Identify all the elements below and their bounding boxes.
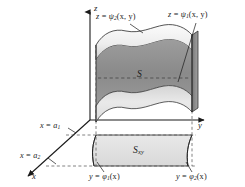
solid-region-s (96, 25, 198, 122)
left-curve-eq: = (95, 172, 100, 181)
plane-a2-lhs: x (20, 151, 24, 160)
base-region-sub: xy (138, 148, 144, 155)
plane-a2-eq: = (26, 151, 31, 160)
lower-surface-args: (x, y) (189, 10, 208, 19)
left-curve-label: y = φ1(x) (89, 173, 120, 182)
lower-surface-lhs: z (168, 10, 171, 19)
plane-a1-sub: 1 (57, 124, 60, 130)
base-region-label: Sxy (133, 145, 144, 156)
left-curve-args: (x) (110, 172, 120, 181)
y-axis-label: y (198, 121, 202, 130)
left-curve-lhs: y (89, 172, 93, 181)
leader-plane-a2 (48, 158, 56, 164)
leader-plane-a1 (68, 128, 76, 133)
plane-a1-eq: = (46, 121, 51, 130)
solid-region-label: S (137, 69, 142, 79)
plane-a1-label: x = a1 (40, 122, 60, 131)
lower-surface-label: z = ψ1(x, y) (168, 11, 208, 20)
plane-a2-sub: 2 (37, 154, 40, 160)
right-curve-label: y = φ2(x) (176, 173, 207, 182)
x-axis-label: x (32, 172, 36, 181)
right-curve-eq: = (182, 172, 187, 181)
right-curve-lhs: y (176, 172, 180, 181)
upper-surface-eq: = (102, 12, 107, 21)
plane-a1-lhs: x (40, 121, 44, 130)
lower-surface-eq: = (174, 10, 179, 19)
leader-right-curve (186, 162, 192, 172)
plane-a2-label: x = a2 (20, 152, 40, 161)
right-curve-args: (x) (197, 172, 207, 181)
upper-surface-lhs: z (96, 12, 99, 21)
solid-region-symbol: S (137, 68, 142, 79)
figure-canvas: z y x z = ψ2(x, y) z = ψ1(x, y) S Sxy x … (0, 0, 245, 187)
upper-surface-args: (x, y) (117, 12, 136, 21)
upper-surface-label: z = ψ2(x, y) (96, 13, 136, 22)
